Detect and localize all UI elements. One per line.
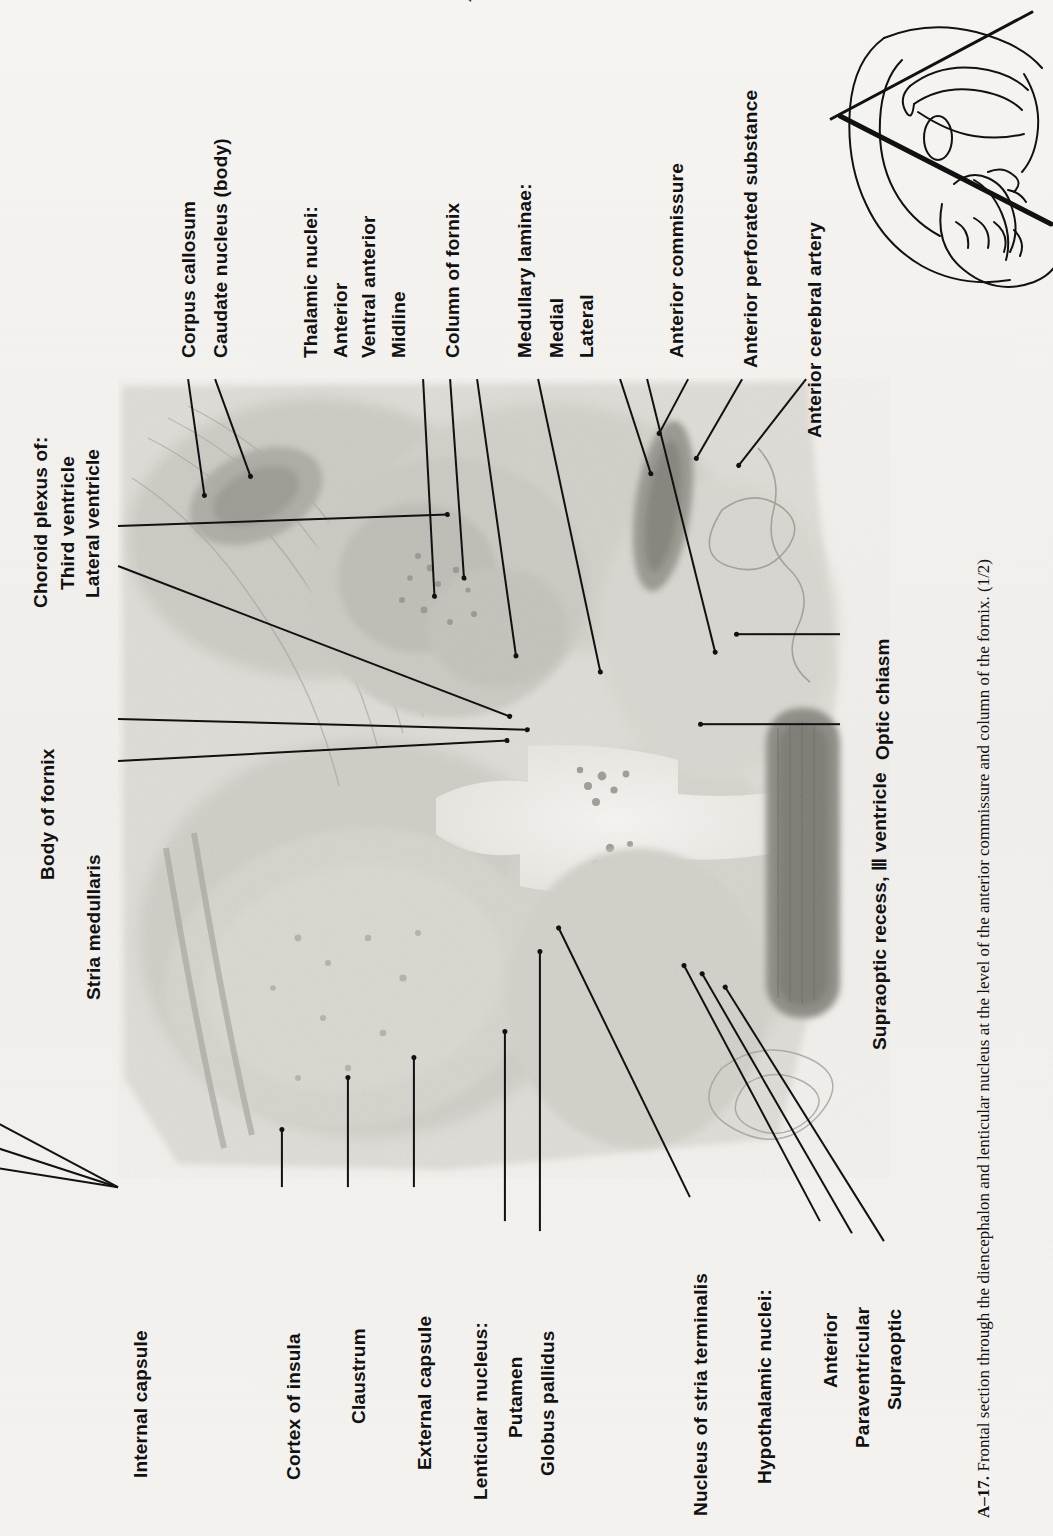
label-choroid-plexus-of: Choroid plexus of:: [30, 437, 52, 608]
label-globus-pallidus: Globus pallidus: [537, 1330, 559, 1476]
label-third-ventricle: Third ventricle: [57, 456, 79, 590]
label-body-of-fornix: Body of fornix: [37, 748, 59, 880]
atlas-page: ATLAS 693: [0, 0, 1053, 1536]
leader-putamen: [504, 1031, 506, 1221]
label-thalamic-midline: Midline: [388, 291, 410, 358]
label-column-of-fornix: Column of fornix: [442, 203, 464, 358]
leader-optic-chiasm: [736, 633, 840, 635]
leader-external-capsule: [413, 1057, 415, 1187]
label-thalamic-ventral-anterior: Ventral anterior: [358, 215, 380, 358]
label-hypothalamic-nuclei: Hypothalamic nuclei:: [754, 1289, 776, 1484]
label-medullary-laminae: Medullary laminae:: [514, 183, 536, 358]
label-internal-capsule: Internal capsule: [130, 1330, 152, 1478]
label-supraoptic-recess: Supraoptic recess, Ⅲ ventricle: [868, 772, 891, 1050]
label-caudate-nucleus-body: Caudate nucleus (body): [210, 138, 232, 358]
leader-claustrum: [347, 1077, 349, 1187]
label-hypothalamic-supraoptic: Supraoptic: [884, 1309, 906, 1410]
label-optic-chiasm: Optic chiasm: [872, 638, 894, 760]
leader-cortex-of-insula: [281, 1129, 283, 1187]
label-corpus-callosum: Corpus callosum: [178, 201, 200, 358]
leader-supraoptic-recess: [700, 723, 840, 725]
label-external-capsule: External capsule: [414, 1316, 436, 1470]
label-thalamic-anterior: Anterior: [330, 283, 352, 359]
plane-of-section-line: [840, 116, 1051, 224]
label-stria-medullaris: Stria medullaris: [83, 854, 105, 1000]
figure-number: A–17.: [974, 1476, 993, 1518]
label-lateral-ventricle: Lateral ventricle: [82, 449, 104, 598]
midsagittal-brain-plane-diagram: [838, 8, 1053, 293]
leader-internal-capsule-b: [0, 1093, 118, 1188]
label-hypothalamic-anterior: Anterior: [820, 1313, 842, 1389]
label-nucleus-of-stria-terminalis: Nucleus of stria terminalis: [690, 1273, 712, 1516]
leader-globus-pallidus: [539, 951, 541, 1231]
running-head: ATLAS: [452, 0, 477, 2]
label-anterior-perforated-substance: Anterior perforated substance: [740, 90, 762, 368]
label-hypothalamic-paraventricular: Paraventricular: [852, 1307, 874, 1448]
label-putamen: Putamen: [505, 1356, 527, 1438]
label-claustrum: Claustrum: [348, 1328, 370, 1424]
label-medullary-medial: Medial: [546, 298, 568, 358]
label-thalamic-nuclei: Thalamic nuclei:: [300, 206, 322, 358]
label-medullary-lateral: Lateral: [576, 294, 598, 358]
label-cortex-of-insula: Cortex of insula: [283, 1333, 305, 1480]
label-anterior-commissure: Anterior commissure: [666, 163, 688, 358]
leader-internal-capsule-a: [0, 1036, 119, 1188]
label-anterior-cerebral-artery: Anterior cerebral artery: [804, 222, 826, 438]
figure-caption-block: A–17. Frontal section through the dience…: [972, 1158, 997, 1518]
label-lenticular-nucleus: Lenticular nucleus:: [470, 1322, 492, 1500]
figure-caption-text: Frontal section through the diencephalon…: [974, 559, 993, 1472]
